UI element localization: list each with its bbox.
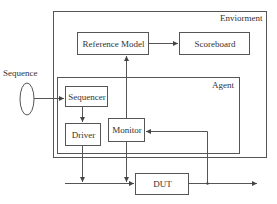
environment-label: Enviorment [220, 14, 263, 23]
sequencer-label: Sequencer [66, 87, 108, 107]
driver-label: Driver [66, 124, 101, 146]
monitor-label: Monitor [109, 119, 145, 142]
sequence-label: Sequence [3, 69, 37, 78]
agent-label: Agent [212, 81, 234, 90]
scoreboard-label: Scoreboard [180, 33, 250, 55]
bus-junction-dot [206, 182, 208, 184]
reference-model-label: Reference Model [78, 33, 149, 55]
sequence-ellipse [20, 83, 34, 115]
dut-label: DUT [136, 174, 189, 195]
